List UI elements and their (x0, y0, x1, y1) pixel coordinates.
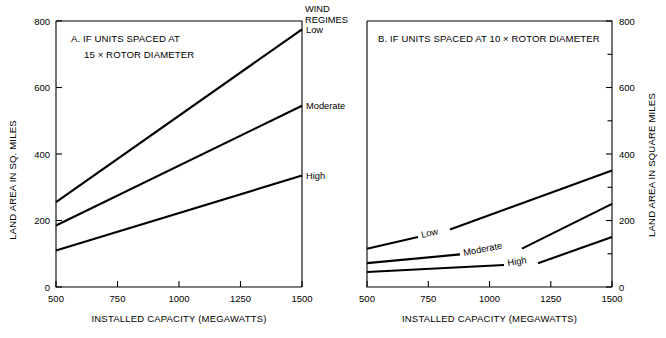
panel-b-ytick-200: 200 (619, 215, 635, 226)
panel-b-ytick-400: 400 (619, 149, 635, 160)
panel-b-xtick-500: 500 (359, 293, 375, 304)
panel-a-ytick-800: 800 (34, 16, 50, 27)
panel-a-label-moderate: Moderate (306, 101, 345, 111)
panel-b-y-major-ticks (606, 21, 612, 287)
legend-header-line1: WIND (305, 4, 330, 14)
panel-b-xtick-1250: 1250 (540, 293, 561, 304)
panel-b-xtick-1500: 1500 (601, 293, 622, 304)
panel-b-ytick-600: 600 (619, 82, 635, 93)
panel-b-ytick-0: 0 (619, 282, 624, 293)
panel-a-ytick-600: 600 (34, 82, 50, 93)
panel-a-xtick-1500: 1500 (291, 293, 312, 304)
panel-a-label-high: High (306, 171, 325, 181)
panel-b-x-ticks (367, 281, 612, 287)
panel-a: 0 200 400 600 800 500 750 1000 1250 1500… (7, 16, 345, 325)
panel-a-xtick-1000: 1000 (168, 293, 189, 304)
panel-a-ytick-400: 400 (34, 149, 50, 160)
panel-a-xtick-500: 500 (48, 293, 64, 304)
panel-a-title-line1: A. IF UNITS SPACED AT (71, 33, 180, 44)
panel-b: 0 200 400 600 800 500 750 1000 1250 1500… (359, 16, 657, 325)
panel-b-xaxis-title: INSTALLED CAPACITY (MEGAWATTS) (402, 313, 577, 324)
panel-a-y-ticks (56, 21, 62, 287)
panel-a-series-moderate (56, 106, 302, 226)
panel-b-series-low (367, 171, 612, 249)
panel-b-label-moderate: Moderate (462, 241, 502, 258)
chart-svg: 0 200 400 600 800 500 750 1000 1250 1500… (0, 0, 666, 338)
panel-a-label-low: Low (306, 25, 323, 35)
wind-land-area-figure: 0 200 400 600 800 500 750 1000 1250 1500… (0, 0, 666, 338)
legend-header: WIND REGIMES (305, 4, 348, 25)
legend-header-line2: REGIMES (305, 15, 348, 25)
panel-a-x-ticks (56, 281, 302, 287)
panel-a-ytick-0: 0 (45, 282, 50, 293)
panel-a-axes (56, 21, 302, 287)
panel-a-yaxis-title: LAND AREA IN SQ. MILES (7, 120, 18, 240)
panel-b-series-moderate (367, 204, 612, 263)
panel-a-xaxis-title: INSTALLED CAPACITY (MEGAWATTS) (91, 313, 266, 324)
panel-a-series-high (56, 176, 302, 251)
panel-a-xtick-1250: 1250 (230, 293, 251, 304)
panel-b-label-low: Low (420, 226, 439, 240)
panel-b-xtick-1000: 1000 (479, 293, 500, 304)
panel-a-frame (56, 21, 302, 287)
panel-a-title-line2: 15 × ROTOR DIAMETER (84, 49, 194, 60)
panel-a-xtick-750: 750 (110, 293, 126, 304)
panel-b-label-high: High (507, 255, 527, 268)
panel-b-yaxis-title: LAND AREA IN SQUARE MILES (646, 93, 657, 237)
panel-b-xtick-750: 750 (420, 293, 436, 304)
panel-a-ytick-200: 200 (34, 215, 50, 226)
panel-b-title-line1: B. IF UNITS SPACED AT 10 × ROTOR DIAMETE… (378, 33, 600, 44)
panel-b-ytick-800: 800 (619, 16, 635, 27)
